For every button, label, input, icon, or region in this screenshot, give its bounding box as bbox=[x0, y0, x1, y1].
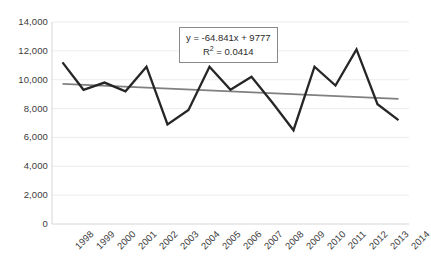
x-axis-tick-label: 2003 bbox=[178, 229, 200, 251]
trendline-equation-text: y = -64.841x + 9777 bbox=[186, 31, 271, 44]
x-axis-tick-label: 2012 bbox=[367, 229, 389, 251]
x-axis-tick-label: 2011 bbox=[346, 229, 367, 250]
x-axis-tick-label: 2010 bbox=[325, 229, 347, 251]
x-axis-tick-label: 1998 bbox=[73, 229, 95, 251]
x-axis-tick-label: 1999 bbox=[94, 229, 116, 251]
x-axis-tick-label: 2005 bbox=[220, 229, 242, 251]
x-axis-tick-label: 2013 bbox=[388, 229, 410, 251]
x-axis-tick-label: 2009 bbox=[304, 229, 326, 251]
x-axis-tick-label: 2000 bbox=[115, 229, 137, 251]
r-squared-symbol: R bbox=[203, 46, 210, 57]
r-squared-text: R2 = 0.0414 bbox=[186, 44, 271, 58]
x-axis-tick-label: 2006 bbox=[241, 229, 263, 251]
x-axis-tick-label: 2001 bbox=[136, 229, 158, 251]
x-axis-tick-label: 2002 bbox=[157, 229, 179, 251]
x-axis-tick-label: 2014 bbox=[409, 229, 431, 251]
x-axis-tick-label: 2008 bbox=[283, 229, 305, 251]
r-squared-exponent: 2 bbox=[210, 45, 214, 52]
x-axis-tick-label: 2004 bbox=[199, 229, 221, 251]
trendline-equation-box: y = -64.841x + 9777 R2 = 0.0414 bbox=[179, 27, 278, 63]
r-squared-value: = 0.0414 bbox=[216, 46, 253, 57]
x-axis-tick-label: 2007 bbox=[262, 229, 284, 251]
